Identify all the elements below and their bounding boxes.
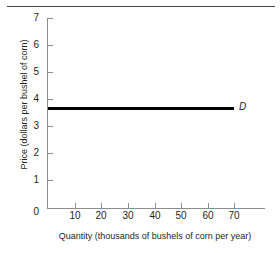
figure-container: 7 6 5 4 3 2 1 0 10 20 30 40 50 60 70 D P…: [0, 0, 280, 253]
x-axis-title: Quantity (thousands of bushels of corn p…: [30, 231, 280, 241]
x-tick-label-70: 70: [224, 211, 244, 221]
demand-curve-label: D: [239, 102, 246, 112]
x-tick-label-20: 20: [91, 211, 111, 221]
x-tick-label-40: 40: [145, 211, 165, 221]
x-tick-60: [208, 203, 209, 208]
x-axis-line: [47, 208, 265, 209]
x-tick-label-30: 30: [118, 211, 138, 221]
y-tick-label-0: 0: [23, 207, 39, 217]
x-tick-70: [234, 203, 235, 208]
y-tick-2: [48, 153, 53, 154]
y-tick-4: [48, 99, 53, 100]
y-tick-5: [48, 72, 53, 73]
y-tick-1: [48, 180, 53, 181]
y-tick-7: [48, 18, 53, 19]
demand-curve: [48, 107, 234, 110]
plot-area: 7 6 5 4 3 2 1 0 10 20 30 40 50 60 70 D: [0, 0, 280, 253]
y-axis-title: Price (dollars per bushel of corn): [20, 15, 29, 195]
x-tick-40: [155, 203, 156, 208]
x-tick-label-10: 10: [65, 211, 85, 221]
x-tick-50: [181, 203, 182, 208]
y-tick-6: [48, 45, 53, 46]
x-tick-30: [128, 203, 129, 208]
y-tick-3: [48, 126, 53, 127]
x-tick-20: [101, 203, 102, 208]
x-tick-label-50: 50: [171, 211, 191, 221]
x-tick-label-60: 60: [198, 211, 218, 221]
x-tick-10: [75, 203, 76, 208]
